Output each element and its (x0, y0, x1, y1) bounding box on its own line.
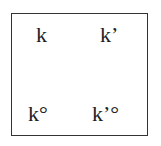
diagram-frame: k k’ k° k’° (11, 13, 148, 136)
label-k: k (36, 24, 47, 46)
label-k-degree: k° (28, 103, 48, 125)
label-k-prime: k’ (100, 24, 118, 46)
label-k-prime-degree: k’° (92, 103, 119, 125)
